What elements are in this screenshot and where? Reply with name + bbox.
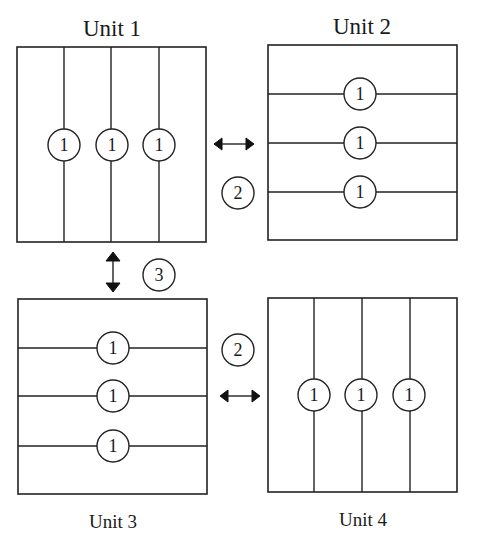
svg-text:1: 1 <box>356 133 365 153</box>
marker-1: 1 <box>344 176 376 208</box>
svg-text:3: 3 <box>155 265 164 285</box>
marker-1: 1 <box>345 379 377 411</box>
marker-1: 1 <box>48 129 80 161</box>
unit-3-label: Unit 3 <box>89 511 137 532</box>
svg-text:2: 2 <box>234 183 243 203</box>
marker-1: 1 <box>97 380 129 412</box>
marker-1: 1 <box>96 129 128 161</box>
unit-1: Unit 1 1 1 1 <box>17 16 206 242</box>
marker-2: 2 <box>222 334 254 366</box>
unit-diagram: Unit 1 1 1 1 Unit 2 1 1 <box>0 0 478 545</box>
marker-1: 1 <box>298 379 330 411</box>
marker-1: 1 <box>97 430 129 462</box>
svg-text:1: 1 <box>109 338 118 358</box>
unit-4-label: Unit 4 <box>339 509 388 530</box>
svg-text:1: 1 <box>60 135 69 155</box>
svg-text:1: 1 <box>356 84 365 104</box>
unit-3: 1 1 1 Unit 3 <box>18 299 207 532</box>
unit-2-label: Unit 2 <box>333 14 391 39</box>
svg-text:1: 1 <box>310 385 319 405</box>
connection-unit3-unit4: 2 <box>220 334 260 402</box>
svg-text:1: 1 <box>356 182 365 202</box>
marker-1: 1 <box>344 78 376 110</box>
svg-text:1: 1 <box>405 385 414 405</box>
unit-2: Unit 2 1 1 1 <box>268 14 457 240</box>
marker-2: 2 <box>222 177 254 209</box>
connection-unit1-unit2: 2 <box>214 138 254 209</box>
svg-text:1: 1 <box>108 135 117 155</box>
svg-text:1: 1 <box>109 436 118 456</box>
marker-1: 1 <box>344 127 376 159</box>
double-arrow-vertical-icon <box>106 252 120 292</box>
marker-1: 1 <box>143 129 175 161</box>
unit-1-label: Unit 1 <box>83 16 141 41</box>
marker-1: 1 <box>393 379 425 411</box>
svg-text:2: 2 <box>234 340 243 360</box>
marker-1: 1 <box>97 332 129 364</box>
double-arrow-horizontal-icon <box>214 138 254 150</box>
unit-4: 1 1 1 Unit 4 <box>268 298 457 530</box>
svg-text:1: 1 <box>357 385 366 405</box>
double-arrow-horizontal-icon <box>220 390 260 402</box>
svg-text:1: 1 <box>109 386 118 406</box>
svg-text:1: 1 <box>155 135 164 155</box>
connection-unit1-unit3: 3 <box>106 252 175 292</box>
marker-3: 3 <box>143 259 175 291</box>
